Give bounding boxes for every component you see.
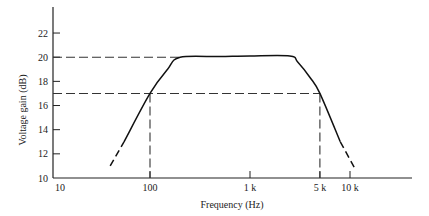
axes	[53, 7, 412, 178]
y-tick-label: 16	[38, 100, 48, 111]
x-tick-label: 5 k	[314, 182, 327, 193]
gain-curve-extrapolation	[110, 142, 124, 166]
x-tick-label: 10 k	[341, 182, 359, 193]
x-tick-label: 1 k	[244, 182, 257, 193]
y-tick-label: 18	[38, 76, 48, 87]
x-tick-label: 10	[55, 182, 65, 193]
x-axis-title: Frequency (Hz)	[200, 199, 263, 211]
response-curve	[110, 56, 354, 168]
gain-curve	[124, 56, 340, 142]
x-ticks: 101001 k5 k10 k	[55, 171, 359, 193]
y-tick-label: 14	[38, 124, 48, 135]
y-tick-label: 22	[38, 28, 48, 39]
y-ticks: 10121416182022	[38, 28, 60, 184]
cutoff-guide-lines	[53, 57, 320, 178]
gain-curve-extrapolation	[340, 142, 354, 167]
y-tick-label: 10	[38, 173, 48, 184]
y-axis-title: Voltage gain (dB)	[17, 75, 29, 146]
y-tick-label: 12	[38, 148, 48, 159]
y-tick-label: 20	[38, 52, 48, 63]
x-tick-label: 100	[143, 182, 158, 193]
bandpass-frequency-response-chart: 10121416182022 101001 k5 k10 k Frequency…	[0, 0, 429, 216]
